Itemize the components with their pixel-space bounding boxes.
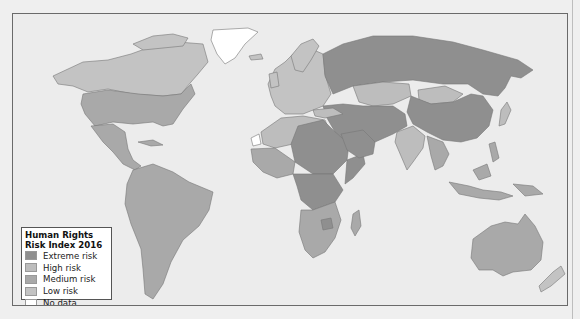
- region-southern-africa: [299, 202, 341, 258]
- swatch-medium-risk: [25, 275, 37, 284]
- region-southeast-asia: [427, 136, 449, 170]
- region-borneo: [473, 164, 491, 180]
- swatch-no-data: [25, 299, 37, 306]
- region-west-africa: [251, 148, 295, 178]
- region-japan: [499, 102, 511, 126]
- legend-label: Low risk: [43, 286, 78, 296]
- region-caribbean: [138, 140, 163, 146]
- region-western-sahara: [251, 134, 261, 146]
- region-uk: [269, 72, 279, 88]
- region-india: [395, 126, 425, 170]
- legend-label: High risk: [43, 263, 81, 273]
- legend-label: Medium risk: [43, 274, 95, 284]
- legend-item-medium: Medium risk: [25, 274, 108, 286]
- swatch-extreme-risk: [25, 251, 37, 260]
- region-indonesia: [449, 182, 513, 200]
- region-south-america: [125, 164, 213, 299]
- legend-label: Extreme risk: [43, 251, 97, 261]
- world-map-frame: Human Rights Risk Index 2016 Extreme ris…: [12, 13, 568, 306]
- region-zimbabwe: [321, 218, 333, 230]
- page-edge-rule: [572, 0, 573, 319]
- legend-item-high: High risk: [25, 262, 108, 274]
- region-philippines: [489, 142, 499, 162]
- region-canada: [53, 42, 208, 96]
- swatch-low-risk: [25, 287, 37, 296]
- legend-item-extreme: Extreme risk: [25, 250, 108, 262]
- region-kazakhstan: [353, 82, 411, 106]
- region-new-zealand: [539, 266, 565, 292]
- swatch-high-risk: [25, 263, 37, 272]
- legend-title-line1: Human Rights: [25, 230, 108, 240]
- region-mexico: [91, 124, 141, 170]
- legend-title-line2: Risk Index 2016: [25, 240, 108, 250]
- legend-item-nodata: No data: [25, 297, 108, 306]
- map-legend: Human Rights Risk Index 2016 Extreme ris…: [21, 227, 112, 300]
- legend-label: No data: [43, 298, 77, 306]
- region-horn-africa: [345, 154, 365, 184]
- region-iceland: [249, 54, 263, 60]
- region-papua: [513, 184, 543, 196]
- region-madagascar: [351, 210, 361, 236]
- legend-item-low: Low risk: [25, 285, 108, 297]
- region-australia: [471, 214, 543, 276]
